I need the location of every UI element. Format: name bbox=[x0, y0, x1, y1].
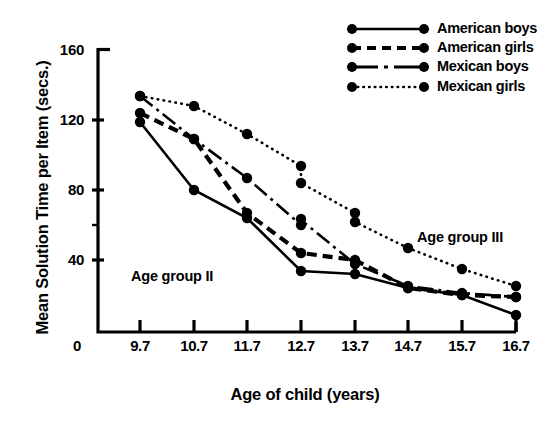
x-tick-label-16-7: 16.7 bbox=[486, 337, 546, 354]
legend-label-american-girls: American girls bbox=[437, 39, 534, 55]
legend-label-mexican-boys: Mexican boys bbox=[437, 58, 529, 74]
legend-swatch-american-boys[interactable] bbox=[347, 24, 429, 34]
x-tick-label-13-7: 13.7 bbox=[325, 337, 385, 354]
x-axis-ticks bbox=[140, 320, 516, 332]
x-tick-label-10-7: 10.7 bbox=[164, 337, 224, 354]
x-tick-label-11-7: 11.7 bbox=[217, 337, 277, 354]
legend-label-american-boys: American boys bbox=[437, 20, 537, 36]
legend-swatch-mexican-girls[interactable] bbox=[347, 82, 429, 92]
annotation-age-group-3: Age group III bbox=[417, 229, 503, 245]
y-tick-label-120: 120 bbox=[38, 111, 84, 128]
x-tick-label-9-7: 9.7 bbox=[110, 337, 170, 354]
legend-swatch-american-girls[interactable] bbox=[347, 43, 429, 53]
x-axis-title: Age of child (years) bbox=[90, 385, 520, 404]
legend-label-mexican-girls: Mexican girls bbox=[437, 78, 525, 94]
y-tick-label-80: 80 bbox=[38, 181, 84, 198]
legend bbox=[347, 24, 429, 92]
x-tick-label-15-7: 15.7 bbox=[432, 337, 492, 354]
annotation-age-group-2: Age group II bbox=[131, 268, 213, 284]
data-markers bbox=[135, 91, 521, 320]
x-tick-label-14-7: 14.7 bbox=[378, 337, 438, 354]
series-line-american-boys bbox=[140, 122, 516, 315]
y-tick-label-160: 160 bbox=[38, 41, 84, 58]
legend-swatch-mexican-boys[interactable] bbox=[347, 62, 429, 72]
x-tick-label-0: 0 bbox=[47, 337, 107, 354]
chart-figure: Mean Solution Time per Item (secs.) Age … bbox=[0, 0, 552, 427]
y-tick-label-40: 40 bbox=[38, 251, 84, 268]
x-tick-label-12-7: 12.7 bbox=[271, 337, 331, 354]
